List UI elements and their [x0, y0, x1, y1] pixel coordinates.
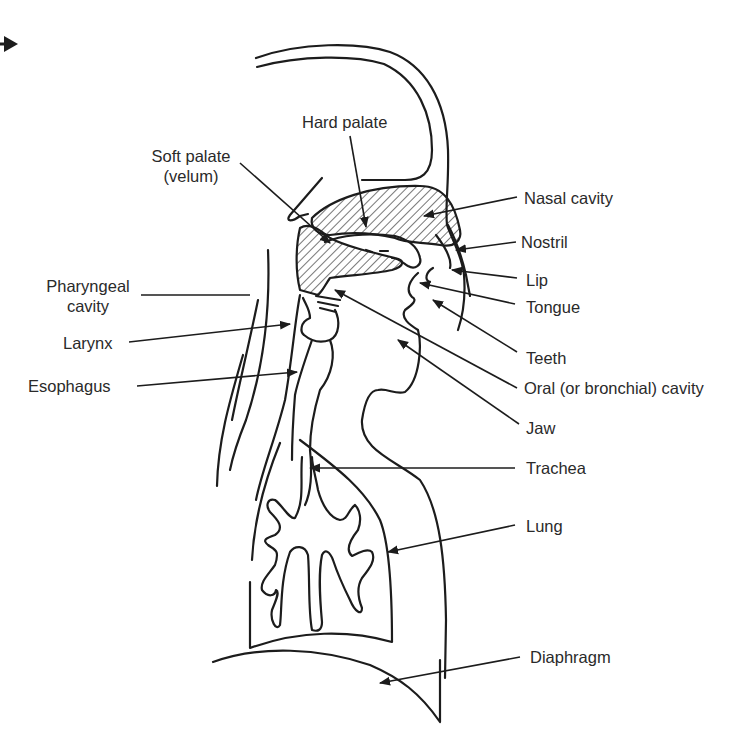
- label-soft-palate-line2: (velum): [143, 166, 239, 186]
- trachea-outline: [305, 340, 333, 505]
- label-pharyngeal-cavity: Pharyngeal cavity: [36, 276, 140, 316]
- speech-organs-diagram: Hard palate Soft palate (velum) Nasal ca…: [0, 0, 744, 745]
- label-esophagus: Esophagus: [28, 376, 111, 396]
- bronchi: [262, 457, 374, 631]
- label-nasal-cavity: Nasal cavity: [524, 188, 613, 208]
- lip-jaw-outline: [362, 273, 446, 678]
- label-pharyngeal-line2: cavity: [36, 296, 140, 316]
- diaphragm-outline: [213, 651, 440, 722]
- label-trachea: Trachea: [526, 458, 586, 478]
- back-outline: [232, 300, 258, 420]
- nasal-cavity-region: [312, 186, 461, 246]
- label-diaphragm: Diaphragm: [530, 647, 611, 667]
- corner-arrow-icon: [0, 36, 18, 52]
- label-hard-palate: Hard palate: [302, 112, 387, 132]
- label-soft-palate-line1: Soft palate: [143, 146, 239, 166]
- label-jaw: Jaw: [526, 418, 555, 438]
- label-tongue: Tongue: [526, 297, 580, 317]
- label-soft-palate: Soft palate (velum): [143, 146, 239, 186]
- label-lip: Lip: [526, 270, 548, 290]
- label-teeth: Teeth: [526, 348, 566, 368]
- label-lung: Lung: [526, 516, 563, 536]
- label-pharyngeal-line1: Pharyngeal: [36, 276, 140, 296]
- label-nostril: Nostril: [521, 232, 568, 252]
- label-oral-cavity: Oral (or bronchial) cavity: [524, 378, 704, 398]
- label-larynx: Larynx: [63, 333, 113, 353]
- pharynx-outline: [230, 250, 268, 470]
